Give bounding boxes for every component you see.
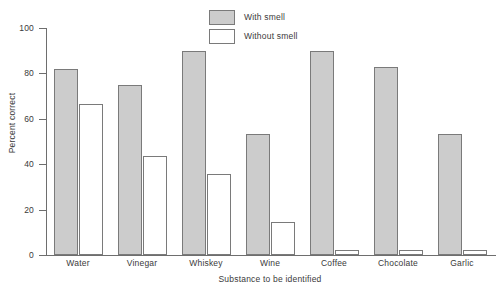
y-axis-title: Percent correct	[7, 63, 17, 183]
y-axis-tick	[39, 119, 46, 120]
x-axis-label-vinegar: Vinegar	[110, 259, 174, 268]
plot-area	[46, 28, 494, 255]
y-axis-tick-label: 20	[0, 206, 34, 215]
y-axis-tick	[39, 164, 46, 165]
bar-coffee-without-smell	[335, 250, 359, 255]
bar-water-without-smell	[79, 104, 103, 255]
x-axis-label-garlic: Garlic	[430, 259, 494, 268]
bar-chart: With smell Without smell 020406080100 Pe…	[0, 0, 496, 294]
y-axis-tick-label: 0	[0, 251, 34, 260]
bar-vinegar-without-smell	[143, 156, 167, 255]
bar-garlic-with-smell	[438, 134, 462, 255]
x-axis-label-wine: Wine	[238, 259, 302, 268]
bar-chocolate-without-smell	[399, 250, 423, 255]
legend-label-with-smell: With smell	[244, 13, 285, 22]
y-axis-tick-label: 80	[0, 69, 34, 78]
x-axis-line	[46, 255, 496, 256]
y-axis-tick	[39, 73, 46, 74]
y-axis-tick-label: 60	[0, 115, 34, 124]
y-axis-tick	[39, 255, 46, 256]
bar-water-with-smell	[54, 69, 78, 255]
bar-whiskey-without-smell	[207, 174, 231, 255]
bar-coffee-with-smell	[310, 51, 334, 255]
bar-wine-without-smell	[271, 222, 295, 255]
y-axis-tick-label: 40	[0, 160, 34, 169]
legend-swatch-with-smell	[209, 10, 235, 25]
bar-garlic-without-smell	[463, 250, 487, 255]
x-axis-label-coffee: Coffee	[302, 259, 366, 268]
bar-whiskey-with-smell	[182, 51, 206, 255]
x-axis-title: Substance to be identified	[46, 274, 494, 284]
legend-item-with-smell: With smell	[209, 9, 349, 26]
bar-chocolate-with-smell	[374, 67, 398, 255]
bar-vinegar-with-smell	[118, 85, 142, 255]
y-axis-tick-label: 100	[0, 24, 34, 33]
x-axis-label-water: Water	[46, 259, 110, 268]
y-axis-tick	[39, 28, 46, 29]
x-axis-label-whiskey: Whiskey	[174, 259, 238, 268]
y-axis-tick	[39, 210, 46, 211]
x-axis-label-chocolate: Chocolate	[366, 259, 430, 268]
bar-wine-with-smell	[246, 134, 270, 255]
